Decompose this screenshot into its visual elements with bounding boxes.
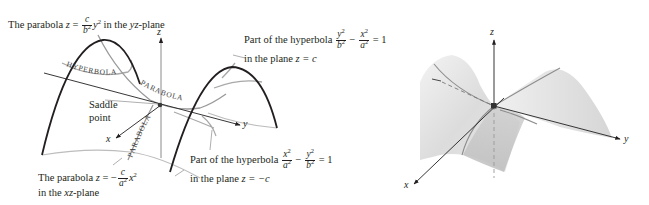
yz-parabola-fraction: cb2: [82, 15, 92, 36]
hyp-top-plane-prefix: in the plane: [244, 53, 296, 64]
xz-parabola-leader: [113, 158, 122, 165]
hyp-top-plane-eq: z = c: [296, 53, 317, 64]
hyp-top-frac1: y2b2: [336, 30, 346, 51]
hyperbola-bottom-annotation-line2: in the plane z = −c: [190, 174, 270, 185]
hyp-bottom-prefix: Part of the hyperbola: [190, 154, 281, 165]
xz-plane-suffix: -plane: [73, 187, 99, 198]
y-axis-label-left: y: [243, 119, 247, 129]
hyp-bottom-frac2: y2b2: [305, 150, 315, 171]
hyp-top-minus: −: [347, 34, 358, 45]
xz-parabola-fraction: ca2: [118, 168, 128, 189]
saddle-point-dot: [158, 103, 163, 108]
parabola-curve-label-2: PARABOLA: [126, 112, 153, 158]
yz-parabola-suffix-pre: in the: [101, 19, 130, 30]
yz-parabola-curve: [98, 35, 226, 109]
y-axis-label-right: y: [624, 134, 628, 144]
yz-parabola-prefix: The parabola: [8, 19, 66, 30]
hyp-top-frac2: x2a2: [359, 30, 369, 51]
xz-parabola-var-exp: 2: [134, 171, 137, 178]
xz-plane-name: xz: [64, 187, 73, 198]
origin-marker: [491, 103, 497, 109]
x-axis-label-right: x: [404, 180, 408, 190]
hyp-bottom-plane-prefix: in the plane: [190, 173, 242, 184]
saddle-point-label: Saddle point: [89, 99, 118, 124]
hyperbola-upper-right: [214, 63, 262, 88]
hyp-bottom-plane-eq: z = −c: [242, 173, 270, 184]
hyperbola-top-annotation-line1: Part of the hyperbola y2b2 − x2a2 = 1: [244, 30, 387, 51]
yz-parabola-annotation: The parabola z = cb2y2 in the yz-plane: [8, 15, 165, 36]
x-axis-label-left: x: [106, 134, 110, 144]
hyp-bottom-minus: −: [293, 154, 304, 165]
xz-parabola-prefix: The parabola: [38, 172, 96, 183]
yz-parabola-eq: =: [70, 19, 81, 30]
hyp-bottom-rhs: = 1: [316, 154, 332, 165]
hyperbola-bottom-leader: [210, 130, 212, 150]
hyp-top-prefix: Part of the hyperbola: [244, 34, 335, 45]
yz-plane-name: yz: [130, 19, 139, 30]
hyperbola-bottom-annotation-line1: Part of the hyperbola x2a2 − y2b2 = 1: [190, 150, 333, 171]
xz-plane-prefix: in the: [38, 187, 64, 198]
hyp-top-rhs: = 1: [370, 34, 386, 45]
z-axis-label-right: z: [490, 27, 494, 37]
xz-parabola-annotation-line1: The parabola z = −ca2x2: [38, 168, 137, 189]
left-edge-parabola: [42, 40, 140, 155]
hyperbola-lower: [174, 112, 216, 136]
saddle-line2: point: [89, 112, 111, 123]
hyp-bottom-frac1: x2a2: [282, 150, 292, 171]
hyp-bottom-leader-2: [175, 170, 184, 176]
xz-parabola-eq: = −: [100, 172, 117, 183]
right-saddle-surface: [414, 40, 620, 184]
z-axis-label-left: z: [157, 27, 161, 37]
parabola-curve-label-1: PARABOLA: [139, 78, 184, 103]
saddle-line1: Saddle: [89, 99, 118, 110]
hyperbola-curve-label: HYPERBOLA: [65, 59, 117, 76]
hyperbola-top-annotation-line2: in the plane z = c: [244, 54, 317, 65]
xz-parabola-annotation-line2: in the xz-plane: [38, 188, 99, 199]
